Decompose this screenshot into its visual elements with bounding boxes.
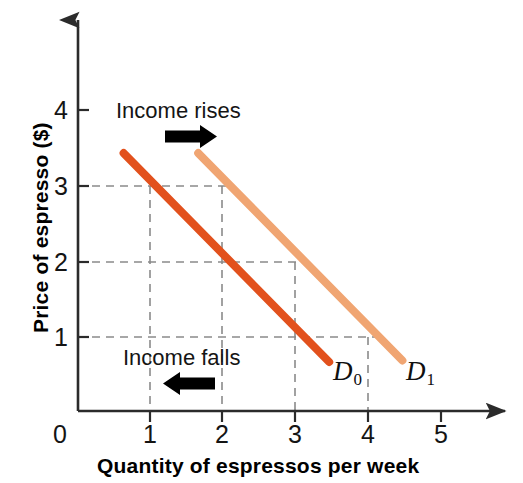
curve-label-d1-subscript: 1 [427,370,436,389]
curve-label-d1-letter: D [406,356,426,386]
curve-label-d0: D0 [333,358,361,385]
income-rises-label: Income rises [116,100,241,122]
x-tick-label-2: 2 [215,422,229,447]
y-tick-label-3: 3 [54,174,68,199]
x-axis-title: Quantity of espressos per week [97,455,419,476]
income-falls-label: Income falls [123,347,240,369]
y-axis-title: Price of espresso ($) [30,122,51,333]
curve-label-d1: D1 [406,358,434,385]
origin-label: 0 [53,422,67,447]
curve-label-d0-subscript: 0 [354,370,363,389]
chart-canvas [0,0,523,483]
y-tick-label-2: 2 [54,250,68,275]
demand-shift-chart: Price of espresso ($) Quantity of espres… [0,0,523,483]
income-rises-arrow-icon [165,125,217,148]
y-tick-label-1: 1 [54,325,68,350]
y-tick-label-4: 4 [54,98,68,123]
x-tick-label-4: 4 [361,422,375,447]
x-tick-label-3: 3 [288,422,302,447]
x-tick-label-5: 5 [434,422,448,447]
y-axis-ticks [78,110,89,337]
x-tick-label-1: 1 [143,422,157,447]
income-falls-arrow-icon [163,372,215,395]
curve-label-d0-letter: D [333,356,353,386]
